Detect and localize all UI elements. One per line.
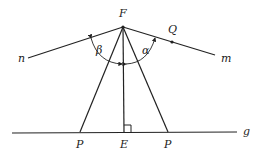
segment-FE	[123, 27, 124, 132]
diagram-canvas: F Q n m g β α P E P	[0, 0, 258, 158]
label-beta: β	[95, 44, 102, 57]
point-F-dot	[121, 25, 124, 28]
label-E: E	[119, 138, 128, 151]
angle-alpha-arc	[126, 38, 155, 64]
label-n: n	[18, 52, 25, 65]
segment-FP-left	[80, 27, 123, 132]
label-m: m	[221, 52, 231, 65]
point-Q-dot	[170, 40, 173, 43]
geometry-diagram: F Q n m g β α P E P	[0, 0, 258, 158]
right-angle-marker	[124, 125, 131, 132]
segment-FP-right	[123, 27, 168, 132]
label-Q: Q	[168, 23, 177, 36]
label-F: F	[118, 7, 127, 20]
line-g	[12, 132, 237, 133]
label-g: g	[243, 125, 250, 138]
label-P-left: P	[75, 138, 84, 151]
label-alpha: α	[142, 44, 150, 57]
line-n	[28, 27, 123, 58]
label-P-right: P	[163, 138, 172, 151]
